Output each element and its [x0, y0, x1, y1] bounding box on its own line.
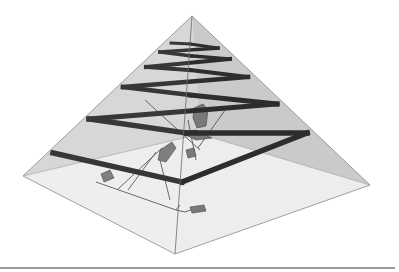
pyramid-diagram — [0, 0, 399, 272]
pyramid-svg — [0, 0, 399, 272]
front-left-face — [23, 16, 192, 254]
front-right-face — [175, 16, 370, 254]
